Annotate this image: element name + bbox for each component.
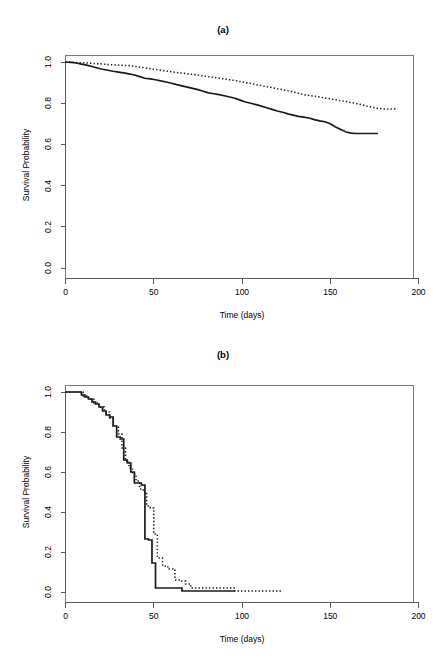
panel-a-xtick-3: 100 xyxy=(235,287,249,297)
panel-b-solid-curve xyxy=(66,392,235,591)
panel-a-x-ticks xyxy=(66,279,419,284)
panel-b-title: (b) xyxy=(217,349,229,360)
panel-a-xlabel: Time (days) xyxy=(220,310,265,320)
panel-a-xtick-2: 50 xyxy=(149,287,159,297)
panel-b-ytick-3: 0.6 xyxy=(43,466,53,478)
panel-b-dotted-curve xyxy=(66,392,281,591)
panel-a: (a) 1.0 0.8 0.6 0.4 0.2 0.0 Survival Pro… xyxy=(0,0,446,340)
panel-a-y-ticks xyxy=(61,62,66,268)
panel-a-ytick-6: 0.0 xyxy=(43,262,53,274)
panel-a-ytick-5: 0.2 xyxy=(43,221,53,233)
panel-b-ylabel: Survival Probability xyxy=(21,455,31,528)
panel-a-solid-curve xyxy=(66,62,378,133)
panel-b-xtick-1: 0 xyxy=(63,611,68,621)
panel-a-xtick-5: 200 xyxy=(411,287,425,297)
panel-a-svg: (a) 1.0 0.8 0.6 0.4 0.2 0.0 Survival Pro… xyxy=(0,0,446,340)
panel-a-plot-box xyxy=(66,56,414,279)
panel-a-ylabel: Survival Probability xyxy=(21,128,31,201)
survival-curve-figure: (a) 1.0 0.8 0.6 0.4 0.2 0.0 Survival Pro… xyxy=(0,0,446,671)
panel-b-ytick-6: 0.0 xyxy=(43,586,53,598)
panel-b-xtick-3: 100 xyxy=(235,611,249,621)
panel-b-ytick-2: 0.8 xyxy=(43,426,53,438)
panel-a-ytick-1: 1.0 xyxy=(43,56,53,68)
panel-b-xtick-2: 50 xyxy=(149,611,159,621)
panel-a-ytick-3: 0.6 xyxy=(43,138,53,150)
panel-b: (b) 1.0 0.8 0.6 0.4 0.2 0.0 Survival Pro… xyxy=(0,330,446,671)
panel-b-xlabel: Time (days) xyxy=(220,634,265,644)
panel-b-xtick-5: 200 xyxy=(411,611,425,621)
panel-b-ytick-4: 0.4 xyxy=(43,506,53,518)
panel-b-svg: (b) 1.0 0.8 0.6 0.4 0.2 0.0 Survival Pro… xyxy=(0,330,446,671)
panel-b-xtick-4: 150 xyxy=(323,611,337,621)
panel-b-ytick-5: 0.2 xyxy=(43,546,53,558)
panel-b-ytick-1: 1.0 xyxy=(43,386,53,398)
panel-a-title: (a) xyxy=(217,24,229,35)
panel-a-xtick-1: 0 xyxy=(63,287,68,297)
panel-b-y-ticks xyxy=(61,392,66,592)
panel-b-x-ticks xyxy=(66,603,419,608)
panel-a-xtick-4: 150 xyxy=(323,287,337,297)
panel-a-ytick-2: 0.8 xyxy=(43,97,53,109)
panel-b-plot-box xyxy=(66,386,414,603)
panel-a-ytick-4: 0.4 xyxy=(43,180,53,192)
panel-a-dotted-curve xyxy=(66,62,396,109)
